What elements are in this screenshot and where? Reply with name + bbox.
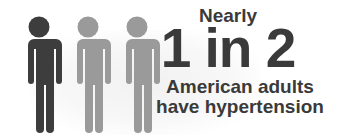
statement-text: have hypertension	[145, 96, 335, 118]
person-icon-highlighted	[16, 16, 62, 134]
ratio-headline: 1 in 2	[160, 18, 296, 78]
person-icon	[65, 16, 111, 134]
subject-text: American adults	[150, 76, 330, 98]
